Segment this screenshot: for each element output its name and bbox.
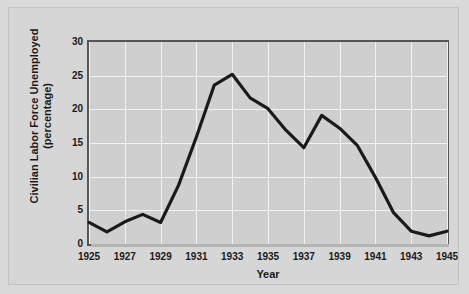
line-series [89, 42, 447, 244]
y-axis-tick-labels: 051015202530 [53, 40, 83, 246]
y-axis-tick-label: 20 [72, 104, 83, 114]
unemployment-line [89, 74, 447, 236]
chart-figure: Civilian Labor Force Unemployed (percent… [8, 7, 459, 285]
x-axis-tick-label: 1929 [149, 251, 171, 262]
x-axis-title: Year [87, 268, 449, 280]
y-axis-tick-label: 5 [77, 205, 83, 215]
x-axis-tick-label: 1939 [328, 251, 350, 262]
y-axis-tick-label: 15 [72, 138, 83, 148]
y-axis-tick-label: 10 [72, 172, 83, 182]
x-axis-tick-label: 1941 [364, 251, 386, 262]
x-axis-tick-label: 1943 [400, 251, 422, 262]
x-axis-tick-label: 1931 [185, 251, 207, 262]
x-axis-tick-label: 1927 [114, 251, 136, 262]
x-axis-tick-labels: 1925192719291931193319351937193919411943… [87, 251, 449, 265]
x-axis-tick-label: 1945 [436, 251, 458, 262]
plot-area [87, 40, 449, 246]
x-axis-tick-label: 1933 [221, 251, 243, 262]
x-axis-tick-label: 1925 [78, 251, 100, 262]
y-axis-tick-label: 30 [72, 37, 83, 47]
x-axis-tick-label: 1937 [293, 251, 315, 262]
y-axis-tick-label: 0 [77, 239, 83, 249]
plot-drop-shadow [91, 244, 449, 247]
x-axis-tick-label: 1935 [257, 251, 279, 262]
y-axis-title: Civilian Labor Force Unemployed (percent… [28, 11, 54, 221]
y-axis-title-line-1: Civilian Labor Force Unemployed [28, 11, 41, 221]
y-axis-tick-label: 25 [72, 71, 83, 81]
vertical-gridline [447, 42, 448, 244]
